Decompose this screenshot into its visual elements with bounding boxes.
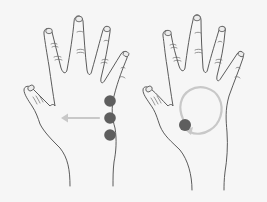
- pressure-point-dot-3: [104, 129, 116, 141]
- left-hand: [24, 16, 130, 186]
- pressure-point-dot-1: [104, 95, 116, 107]
- right-hand-outline: [143, 15, 243, 190]
- left-arrow-icon: [61, 114, 68, 123]
- right-hand: [143, 15, 245, 190]
- pressure-point-dot-2: [104, 112, 116, 124]
- illustration-canvas: [0, 0, 267, 202]
- hand-massage-illustration: [0, 0, 267, 202]
- pressure-point-dot-thumb-base: [179, 119, 191, 131]
